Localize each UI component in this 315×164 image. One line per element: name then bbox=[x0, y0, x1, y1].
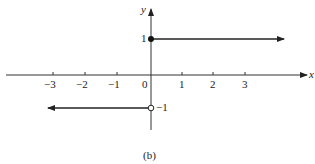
x-tick-label: 2 bbox=[210, 79, 216, 90]
y-tick-label: 1 bbox=[141, 33, 147, 44]
x-tick-label: 1 bbox=[179, 79, 185, 90]
x-tick-label: 3 bbox=[242, 79, 248, 90]
x-tick-label: −3 bbox=[44, 79, 56, 90]
closed-dot bbox=[148, 36, 154, 42]
y-tick-label: −1 bbox=[156, 102, 168, 113]
x-tick-label: −1 bbox=[108, 79, 120, 90]
x-axis-label: x bbox=[309, 69, 314, 80]
y-axis-label: y bbox=[141, 4, 146, 15]
open-dot bbox=[148, 105, 154, 111]
x-tick-label: 0 bbox=[142, 79, 148, 90]
x-tick-label: −2 bbox=[76, 79, 88, 90]
figure-caption: (b) bbox=[143, 150, 156, 161]
